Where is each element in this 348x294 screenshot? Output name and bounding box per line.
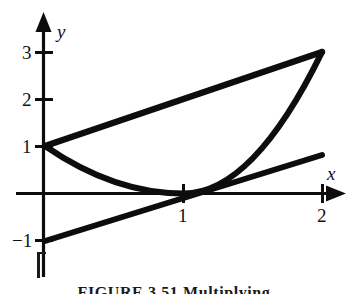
figure-container: 3 2 1 −1 1 2 y x FIGURE 3.51 Multiplying — [0, 0, 348, 294]
x-axis-arrowhead — [326, 186, 346, 202]
x-tick-label-1: 1 — [178, 206, 188, 225]
secant-line — [45, 52, 322, 146]
y-tick-label-minus-1: −1 — [12, 231, 32, 250]
y-tick-label-2: 2 — [22, 90, 32, 109]
y-axis-arrowhead — [36, 12, 52, 32]
figure-caption: FIGURE 3.51 Multiplying — [0, 283, 348, 294]
x-axis-label: x — [327, 164, 335, 183]
graph-canvas — [0, 0, 348, 294]
x-tick-label-2: 2 — [317, 206, 327, 225]
y-axis-label: y — [57, 22, 65, 41]
y-tick-label-1: 1 — [22, 137, 32, 156]
page-rule-vertical — [37, 252, 40, 278]
y-tick-label-3: 3 — [22, 43, 32, 62]
parabola-curve — [45, 52, 322, 194]
page-rule-corner — [37, 252, 46, 254]
